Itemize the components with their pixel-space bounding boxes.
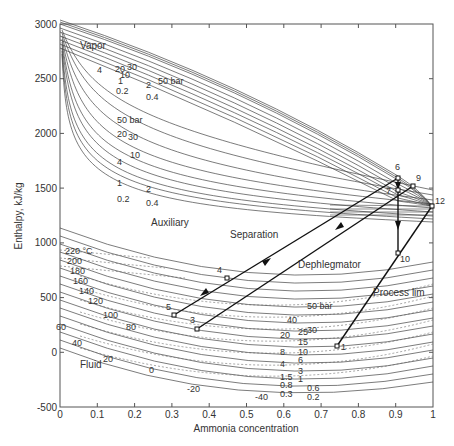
svg-text:3000: 3000 — [35, 19, 58, 30]
svg-text:0.2: 0.2 — [116, 86, 129, 96]
dew-pressure-labels: 50 bar 30 20 10 4 2 1 0.4 0.2 — [117, 115, 159, 208]
svg-text:0.3: 0.3 — [280, 389, 293, 399]
svg-text:180: 180 — [70, 266, 85, 276]
svg-text:Auxiliary: Auxiliary — [151, 217, 189, 228]
svg-text:0.6: 0.6 — [277, 409, 291, 420]
svg-text:2: 2 — [146, 80, 151, 90]
svg-text:20: 20 — [280, 330, 290, 340]
svg-text:1: 1 — [118, 76, 123, 86]
arrow-down-icon — [395, 221, 401, 230]
svg-text:-20: -20 — [187, 384, 200, 394]
svg-text:0.2: 0.2 — [128, 409, 142, 420]
svg-text:40: 40 — [287, 315, 297, 325]
svg-text:220 °C: 220 °C — [65, 246, 93, 256]
svg-text:30: 30 — [307, 325, 317, 335]
svg-text:10: 10 — [130, 150, 140, 160]
svg-text:8: 8 — [280, 347, 285, 357]
svg-text:4: 4 — [280, 359, 285, 369]
svg-text:0.2: 0.2 — [307, 392, 320, 402]
svg-text:80: 80 — [126, 322, 136, 332]
svg-text:4: 4 — [97, 65, 102, 75]
svg-text:9: 9 — [416, 173, 421, 183]
svg-text:120: 120 — [88, 296, 103, 306]
svg-text:Vapor: Vapor — [80, 40, 107, 51]
svg-text:0: 0 — [57, 409, 63, 420]
svg-text:10: 10 — [400, 254, 410, 264]
svg-text:2000: 2000 — [35, 128, 58, 139]
svg-text:4: 4 — [217, 265, 222, 275]
svg-text:4: 4 — [117, 157, 122, 167]
svg-text:0.2: 0.2 — [117, 194, 130, 204]
x-axis-label: Ammonia concentration — [193, 423, 298, 434]
svg-text:50 bar: 50 bar — [158, 76, 184, 86]
enthalpy-concentration-chart: 0 0.1 0.2 0.3 0.4 0.5 0.6 0.7 0.8 0.9 1 … — [0, 0, 454, 446]
svg-text:0: 0 — [51, 347, 57, 358]
y-tick-labels: -500 0 500 1000 1500 2000 2500 3000 — [35, 19, 58, 413]
svg-text:5: 5 — [166, 302, 171, 312]
svg-text:30: 30 — [128, 132, 138, 142]
svg-text:140: 140 — [79, 286, 94, 296]
svg-text:0: 0 — [149, 365, 154, 375]
svg-text:1: 1 — [341, 342, 346, 352]
svg-text:0.4: 0.4 — [146, 92, 159, 102]
svg-text:25: 25 — [298, 327, 308, 337]
svg-text:15: 15 — [298, 337, 308, 347]
svg-text:6: 6 — [395, 162, 400, 172]
svg-text:1: 1 — [298, 374, 303, 384]
svg-text:0.8: 0.8 — [351, 409, 365, 420]
svg-text:0.4: 0.4 — [202, 409, 216, 420]
svg-text:Dephlegmator: Dephlegmator — [298, 259, 361, 270]
svg-text:500: 500 — [40, 292, 57, 303]
svg-text:Fluid: Fluid — [80, 359, 102, 370]
svg-text:0.3: 0.3 — [165, 409, 179, 420]
svg-text:2: 2 — [146, 184, 151, 194]
svg-text:50 bar: 50 bar — [307, 301, 333, 311]
svg-text:60: 60 — [56, 322, 66, 332]
separation-line — [174, 178, 398, 315]
svg-text:20: 20 — [103, 354, 113, 364]
svg-text:-500: -500 — [37, 402, 57, 413]
svg-text:3: 3 — [190, 315, 195, 325]
svg-text:6: 6 — [298, 355, 303, 365]
arrow-down-left-icon — [335, 222, 344, 230]
svg-text:-40: -40 — [255, 392, 268, 402]
svg-text:7: 7 — [386, 186, 391, 196]
svg-text:1000: 1000 — [35, 237, 58, 248]
svg-text:160: 160 — [73, 276, 88, 286]
svg-text:1: 1 — [117, 178, 122, 188]
svg-text:50 bar: 50 bar — [117, 115, 143, 125]
svg-text:0.4: 0.4 — [146, 198, 159, 208]
svg-text:40: 40 — [72, 338, 82, 348]
svg-text:12: 12 — [435, 196, 445, 206]
svg-text:100: 100 — [103, 310, 118, 320]
svg-text:200: 200 — [67, 256, 82, 266]
svg-text:1: 1 — [430, 409, 436, 420]
svg-text:Separation: Separation — [230, 229, 278, 240]
svg-text:0.9: 0.9 — [389, 409, 403, 420]
y-axis-label: Enthalpy, kJ/kg — [13, 182, 24, 249]
svg-text:2500: 2500 — [35, 73, 58, 84]
svg-text:0.1: 0.1 — [90, 409, 104, 420]
svg-text:0.7: 0.7 — [314, 409, 328, 420]
svg-text:0.5: 0.5 — [240, 409, 254, 420]
x-tick-labels: 0 0.1 0.2 0.3 0.4 0.5 0.6 0.7 0.8 0.9 1 — [57, 409, 436, 420]
svg-text:20: 20 — [117, 129, 127, 139]
svg-text:1500: 1500 — [35, 183, 58, 194]
svg-text:Process lim: Process lim — [373, 287, 425, 298]
